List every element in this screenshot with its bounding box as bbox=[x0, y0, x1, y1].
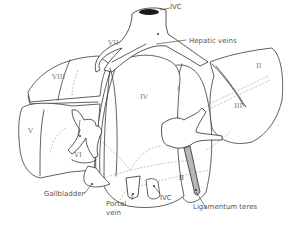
label-ivc-bottom: IVC bbox=[160, 195, 172, 202]
segment-label-iii: III bbox=[234, 103, 242, 110]
label-ligamentum-teres: Ligamentum teres bbox=[193, 204, 257, 211]
segment-label-ii: II bbox=[256, 63, 262, 70]
label-gallbladder: Gallbladder bbox=[44, 191, 84, 198]
label-portal-vein-line1: Portal bbox=[106, 201, 126, 208]
segment-label-viii: VIII bbox=[52, 74, 65, 81]
label-ivc-top: IVC bbox=[170, 4, 182, 11]
label-portal-vein-line2: vein bbox=[106, 210, 121, 217]
segment-label-vi: VI bbox=[74, 152, 82, 159]
segment-label-iv: IV bbox=[140, 94, 148, 101]
label-hepatic-veins: Hepatic veins bbox=[189, 38, 237, 45]
label-b-marker: B bbox=[179, 175, 184, 182]
segment-label-i: I bbox=[177, 86, 180, 93]
portal-vein-trunk bbox=[126, 176, 140, 198]
segment-label-v: V bbox=[28, 128, 33, 135]
segment-label-vii: VII bbox=[108, 40, 119, 47]
ivc-lumen bbox=[139, 9, 159, 15]
ivc-bottom-shape bbox=[146, 179, 160, 199]
